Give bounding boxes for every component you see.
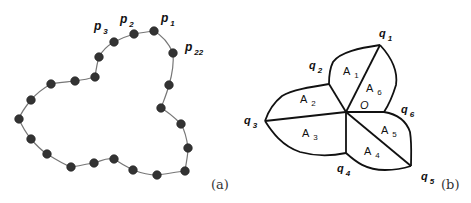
contour-point	[47, 80, 56, 89]
petal-a5-outer	[384, 112, 411, 166]
contour-point	[15, 115, 24, 124]
vertex-label: q3	[244, 114, 258, 130]
diagram-canvas: p3p2p1p22 (a) q1q2q3q4q5q6 A1A2A3A4A5A6 …	[0, 0, 471, 203]
contour-point	[150, 27, 159, 36]
vertex-label: q5	[421, 170, 435, 186]
contour-point	[90, 159, 99, 168]
vertex-label: q6	[401, 103, 415, 119]
contour-point	[157, 104, 166, 113]
region-label: A2	[300, 93, 316, 108]
center-label-o: O	[360, 99, 369, 111]
vertex-label: q1	[379, 27, 393, 43]
region-label: A5	[381, 124, 397, 139]
contour-point	[91, 73, 100, 82]
region-label: A6	[366, 82, 382, 97]
contour-point	[71, 77, 80, 86]
figure-b	[265, 45, 411, 170]
contour-point	[165, 81, 174, 90]
petal-a6-outer	[380, 45, 396, 112]
point-label: p1	[160, 11, 175, 28]
contour-point	[110, 38, 119, 47]
contour-point	[177, 120, 186, 129]
contour-point	[130, 30, 139, 39]
contour-point	[184, 144, 193, 153]
region-label: A1	[343, 65, 359, 80]
point-label: p3	[93, 19, 108, 36]
spoke-o-q2	[329, 84, 346, 112]
region-label: A4	[364, 145, 380, 160]
point-labels: p3p2p1p22	[93, 11, 204, 57]
contour-point	[27, 135, 36, 144]
contour-point	[181, 167, 190, 176]
contour-point	[43, 150, 52, 159]
spoke-o-q3	[265, 112, 346, 121]
contour-point	[110, 155, 119, 164]
figure-a: p3p2p1p22 (a)	[15, 11, 229, 192]
vertex-label: q2	[309, 59, 323, 75]
caption-a: (a)	[211, 177, 229, 192]
contour-point	[169, 49, 178, 58]
caption-b: (b)	[441, 177, 459, 192]
vertex-label: q4	[337, 162, 351, 178]
point-label: p22	[184, 40, 204, 57]
point-label: p2	[119, 12, 134, 29]
contour-point	[129, 166, 138, 175]
contour-point	[153, 171, 162, 180]
region-label: A3	[302, 127, 318, 142]
contour-point	[27, 96, 36, 105]
contour-point	[95, 53, 104, 62]
contour-point	[67, 163, 76, 172]
